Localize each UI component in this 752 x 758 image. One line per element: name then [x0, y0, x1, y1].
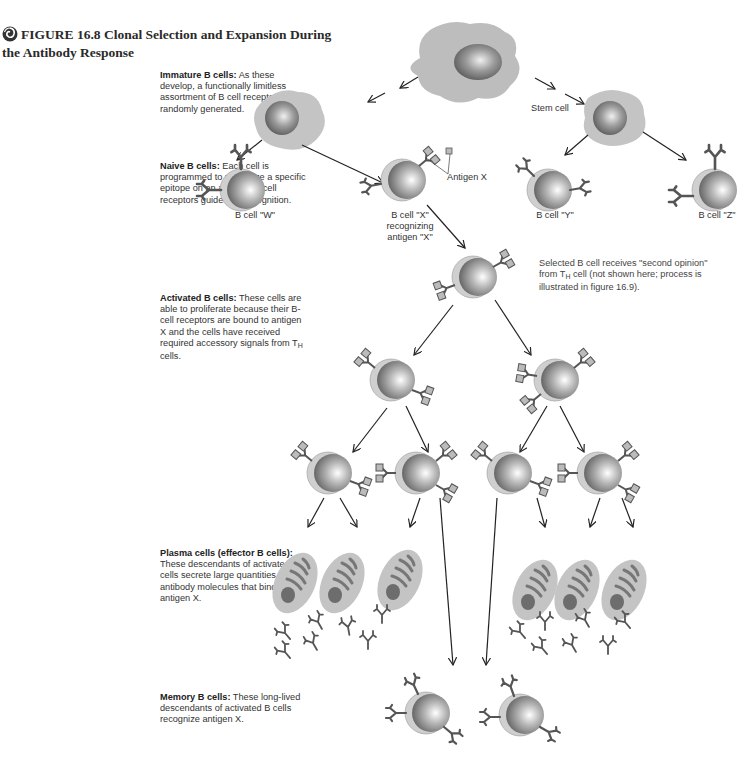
selected-b-cell [433, 249, 515, 300]
immature-b-cell-right [584, 90, 646, 146]
activated-b-cell-gen2-2 [376, 441, 458, 503]
stem-cell [410, 22, 519, 103]
clonal-selection-diagram [0, 0, 752, 758]
immature-b-cell-left [254, 90, 325, 149]
b-cell-w [197, 145, 265, 211]
activated-b-cell-gen1-left [354, 348, 434, 405]
memory-b-cell-left [386, 672, 464, 745]
plasma-cells-left [263, 543, 431, 621]
plasma-cells-right [503, 553, 655, 628]
activated-b-cell-gen2-3 [471, 441, 552, 496]
b-cell-y [514, 156, 591, 211]
activated-b-cell-gen1-right [516, 348, 595, 414]
secreted-antibodies-left [272, 605, 390, 663]
memory-b-cell-right [480, 674, 561, 743]
activated-b-cell-gen2-1 [291, 441, 372, 496]
b-cell-x [360, 146, 452, 201]
activated-b-cell-gen2-4 [558, 441, 640, 503]
